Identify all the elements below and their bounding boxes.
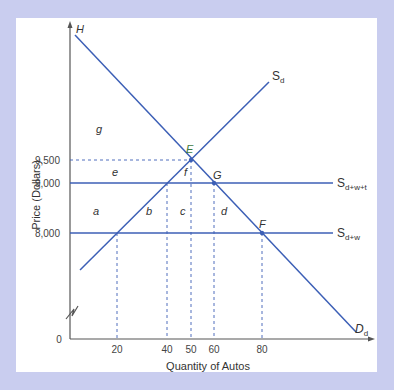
region-a: a bbox=[93, 205, 99, 217]
label-f: F bbox=[259, 218, 267, 230]
label-sdwt: Sd+w+t bbox=[337, 176, 368, 192]
domestic-supply-line bbox=[80, 82, 269, 270]
x-tick-50: 50 bbox=[185, 344, 197, 355]
region-e: e bbox=[112, 166, 118, 178]
axes bbox=[66, 21, 375, 342]
x-tick-40: 40 bbox=[161, 344, 173, 355]
point-f bbox=[260, 231, 264, 235]
x-tick-80: 80 bbox=[256, 344, 268, 355]
label-g: G bbox=[213, 169, 222, 181]
x-tick-20: 20 bbox=[111, 344, 123, 355]
y-axis-label: Price (Dollars) bbox=[30, 160, 42, 230]
region-f: f bbox=[184, 166, 188, 178]
point-e bbox=[189, 158, 193, 162]
origin-label: 0 bbox=[56, 334, 62, 345]
region-c: c bbox=[180, 205, 186, 217]
tariff-chart: 9,500 9,000 8,000 0 20 40 50 60 80 Quant… bbox=[0, 0, 394, 390]
region-d: d bbox=[221, 205, 228, 217]
region-b: b bbox=[146, 205, 152, 217]
region-g: g bbox=[96, 123, 103, 135]
label-h: H bbox=[76, 23, 84, 35]
guide-lines bbox=[70, 160, 262, 339]
label-dd: Dd bbox=[355, 322, 368, 338]
label-e: E bbox=[186, 143, 194, 155]
axis-break-icon bbox=[66, 306, 78, 319]
label-sdw: Sd+w bbox=[337, 226, 360, 242]
x-axis-label: Quantity of Autos bbox=[166, 360, 250, 372]
label-sd: Sd bbox=[272, 69, 284, 85]
x-tick-60: 60 bbox=[208, 344, 220, 355]
point-g bbox=[212, 181, 216, 185]
